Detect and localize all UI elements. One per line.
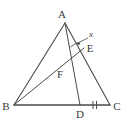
vertex-label-F: F <box>57 68 63 80</box>
segment-AC <box>65 23 110 105</box>
segment-BE-cevian <box>14 48 84 105</box>
angle-label-x: x <box>88 29 93 39</box>
vertex-label-B: B <box>2 100 9 112</box>
segment-AD-cevian <box>65 23 80 105</box>
vertex-label-D: D <box>76 108 84 120</box>
geometry-figure-container: A B C D E F x <box>0 0 126 126</box>
geometry-diagram: A B C D E F x <box>0 0 126 126</box>
vertex-label-C: C <box>113 100 120 112</box>
vertex-label-A: A <box>58 8 66 20</box>
vertex-label-E: E <box>87 42 94 54</box>
segment-AB <box>14 23 65 105</box>
